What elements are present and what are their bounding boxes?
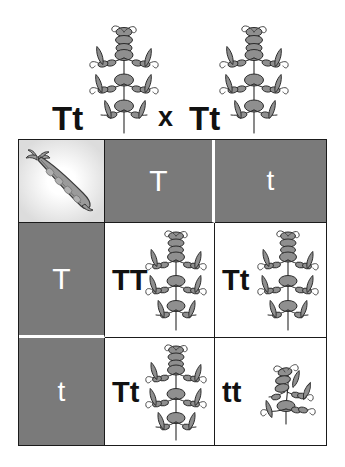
parent1-genotype-label: Tt [52,102,83,135]
offspring-genotype-1: TT [112,266,147,295]
punnett-square-diagram: Tt x Tt [0,0,345,467]
punnett-grid: T t T TT [18,139,327,446]
offspring-genotype-3: Tt [112,377,139,406]
offspring-tall-pea-plant-icon-3 [140,338,212,445]
column-header-allele-2: t [215,140,326,223]
parent2-tall-pea-plant-icon [214,18,294,136]
offspring-tall-pea-plant-icon-1 [140,224,212,336]
column-header-allele-2-label: t [215,167,326,195]
offspring-cell-1: TT [105,223,215,338]
offspring-cell-2: Tt [215,223,326,338]
column-header-allele-1-label: T [105,166,212,196]
row-header-allele-2: t [19,338,105,445]
parent1-tall-pea-plant-icon [84,18,164,136]
pea-pod-icon [19,140,104,222]
offspring-tall-pea-plant-icon-2 [252,224,324,336]
offspring-dwarf-pea-plant-icon-4 [252,354,324,430]
column-header-allele-1: T [105,140,215,223]
offspring-cell-4: tt [215,338,326,445]
row-header-allele-1-label: T [19,264,104,294]
parental-cross-header: Tt x Tt [18,14,327,136]
row-header-allele-2-label: t [19,378,104,406]
punnett-corner-cell [19,140,105,223]
offspring-genotype-2: Tt [222,266,249,295]
row-header-allele-1: T [19,223,105,338]
offspring-genotype-4: tt [222,377,241,406]
offspring-cell-3: Tt [105,338,215,445]
